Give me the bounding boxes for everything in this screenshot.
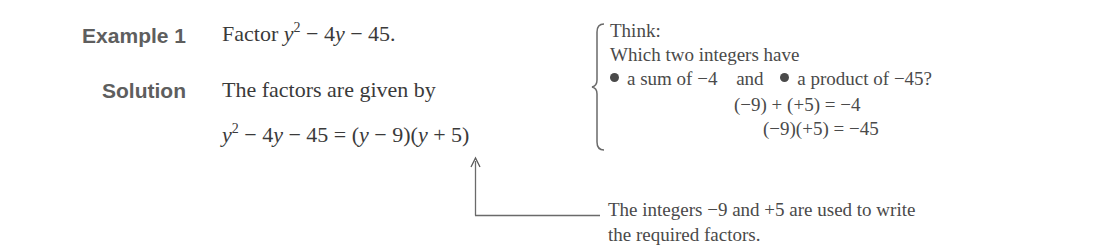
check-product: (−9)(+5) = −45: [763, 118, 879, 140]
left-brace: [592, 24, 604, 150]
bullet-icon: [610, 73, 619, 82]
condition-product: a product of −45?: [797, 68, 932, 89]
connector-lines: [0, 0, 1111, 251]
condition-sum: a sum of −4: [627, 68, 717, 89]
bullet-icon: [780, 73, 789, 82]
think-heading: Think:: [610, 20, 661, 42]
annotation-line-2: the required factors.: [608, 224, 760, 246]
annotation-line-1: The integers −9 and +5 are used to write: [608, 199, 915, 221]
connector-and: and: [736, 68, 763, 89]
think-question: Which two integers have: [610, 44, 799, 66]
think-conditions: a sum of −4 and a product of −45?: [610, 68, 932, 90]
check-sum: (−9) + (+5) = −4: [734, 94, 860, 116]
